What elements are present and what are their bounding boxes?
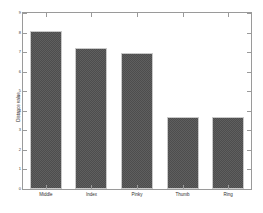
x-tick-label: Ring	[224, 192, 233, 197]
y-tick-label: 1	[19, 167, 21, 171]
x-tick-label: Middle	[39, 192, 52, 197]
x-tick-mark	[228, 13, 229, 17]
x-tick-mark	[183, 13, 184, 17]
x-tick-mark	[137, 13, 138, 17]
y-tick-mark	[247, 72, 251, 73]
x-tick-label: Pinky	[131, 192, 142, 197]
plot-area: 0123456789 MiddleIndexPinkyThumbRing	[22, 12, 252, 190]
x-tick-mark	[137, 185, 138, 189]
x-tick-mark	[46, 13, 47, 17]
bar	[75, 48, 107, 189]
x-tick-mark	[46, 185, 47, 189]
x-tick-label: Index	[86, 192, 97, 197]
y-tick-mark	[247, 33, 251, 34]
y-tick-mark	[247, 130, 251, 131]
y-tick-mark	[247, 111, 251, 112]
y-tick-mark	[23, 72, 27, 73]
y-tick-label: 7	[19, 50, 21, 54]
y-tick-label: 4	[19, 109, 21, 113]
y-tick-mark	[23, 111, 27, 112]
y-tick-mark	[247, 169, 251, 170]
y-tick-label: 3	[19, 128, 21, 132]
y-tick-mark	[247, 189, 251, 190]
y-tick-mark	[23, 189, 27, 190]
bar	[121, 53, 153, 189]
y-tick-label: 5	[19, 89, 21, 93]
y-tick-mark	[247, 13, 251, 14]
y-tick-mark	[23, 33, 27, 34]
y-tick-label: 6	[19, 70, 21, 74]
x-tick-mark	[91, 13, 92, 17]
y-tick-mark	[23, 52, 27, 53]
y-tick-label: 8	[19, 31, 21, 35]
y-tick-label: 2	[19, 148, 21, 152]
y-tick-mark	[247, 150, 251, 151]
y-tick-mark	[247, 91, 251, 92]
bar-chart-figure: Distance value 0123456789 MiddleIndexPin…	[0, 0, 263, 213]
y-tick-mark	[23, 91, 27, 92]
bar	[167, 117, 199, 189]
x-tick-mark	[183, 185, 184, 189]
x-tick-mark	[228, 185, 229, 189]
y-tick-mark	[23, 169, 27, 170]
y-tick-label: 0	[19, 187, 21, 191]
x-tick-mark	[91, 185, 92, 189]
bar	[30, 31, 62, 189]
y-tick-mark	[23, 150, 27, 151]
y-tick-mark	[247, 52, 251, 53]
x-tick-label: Thumb	[176, 192, 190, 197]
y-axis-title: Distance value	[16, 92, 21, 122]
bar	[212, 117, 244, 189]
y-tick-mark	[23, 13, 27, 14]
y-tick-label: 9	[19, 11, 21, 15]
y-tick-mark	[23, 130, 27, 131]
